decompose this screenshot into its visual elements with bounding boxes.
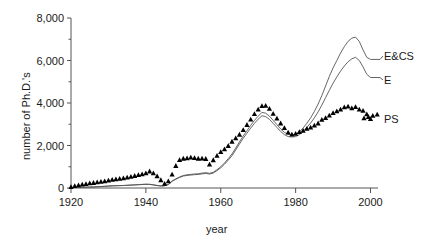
data-marker [166, 178, 171, 183]
data-marker [353, 104, 358, 109]
series-label-ecs: E&CS [384, 50, 414, 62]
y-tick-label: 2,000 [12, 140, 64, 152]
data-marker [226, 143, 231, 148]
x-axis-ticks [71, 188, 371, 193]
data-marker [72, 183, 77, 188]
data-marker [211, 157, 216, 162]
data-marker [252, 111, 257, 116]
y-tick-label: 0 [12, 182, 64, 194]
data-marker [173, 163, 178, 168]
data-line [71, 57, 383, 187]
data-marker [248, 117, 253, 122]
data-marker [345, 104, 350, 109]
series-e [71, 57, 383, 187]
y-tick-label: 6,000 [12, 55, 64, 67]
data-marker [140, 171, 145, 176]
x-tick-label: 1920 [45, 196, 97, 208]
series-label-e: E [384, 74, 391, 86]
data-marker [244, 122, 249, 127]
data-marker [327, 113, 332, 118]
data-marker [125, 175, 130, 180]
x-axis-title: year [206, 223, 227, 235]
data-marker [323, 115, 328, 120]
data-marker [278, 121, 283, 126]
x-tick-label: 1980 [270, 196, 322, 208]
y-axis-ticks [67, 18, 71, 188]
chart-figure: number of Ph.D.'s year 02,0004,0006,0008… [0, 0, 421, 248]
legend-marker-sample [370, 113, 375, 118]
y-tick-label: 8,000 [12, 12, 64, 24]
data-series-group [68, 37, 383, 189]
series-label-ps: PS [384, 113, 399, 125]
data-marker [169, 172, 174, 177]
x-tick-label: 1960 [195, 196, 247, 208]
data-marker [282, 125, 287, 130]
data-marker [68, 184, 73, 189]
data-marker [263, 103, 268, 108]
data-marker [132, 173, 137, 178]
x-tick-label: 1940 [120, 196, 172, 208]
data-marker [136, 172, 141, 177]
legend-marker-sample [375, 112, 380, 117]
data-marker [237, 132, 242, 137]
data-marker [207, 162, 212, 167]
data-marker [218, 149, 223, 154]
data-marker [271, 111, 276, 116]
data-marker [286, 130, 291, 135]
data-marker [147, 169, 152, 174]
data-marker [241, 127, 246, 132]
data-marker [357, 107, 362, 112]
data-marker [106, 178, 111, 183]
data-marker [128, 174, 133, 179]
x-tick-label: 2000 [345, 196, 397, 208]
data-marker [192, 155, 197, 160]
y-tick-label: 4,000 [12, 97, 64, 109]
data-marker [274, 116, 279, 121]
chart-plot-area [0, 0, 421, 248]
series-ps [68, 103, 379, 189]
data-marker [203, 156, 208, 161]
